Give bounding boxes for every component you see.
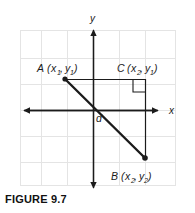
point-b-x-var: x <box>124 170 131 182</box>
point-a-comma: , <box>60 62 63 74</box>
figure-caption: FIGURE 9.7 <box>5 193 67 205</box>
grid-lines <box>20 30 176 186</box>
point-a-label: A ( x 1 , y 1 ) <box>36 62 78 76</box>
point-b-name: B <box>111 170 118 182</box>
distance-label: d <box>96 112 103 124</box>
coordinate-plane-diagram: x y d A ( x 1 , y 1 ) C ( <box>0 0 195 213</box>
point-a-x-var: x <box>50 62 57 74</box>
point-b-comma: , <box>134 170 137 182</box>
point-c-x-var: x <box>130 62 137 74</box>
point-a-name: A <box>36 62 44 74</box>
point-c-label: C ( x 2 , y 1 ) <box>117 62 158 76</box>
point-c-name: C <box>117 62 125 74</box>
x-axis-label: x <box>168 105 175 116</box>
point-c-comma: , <box>140 62 143 74</box>
point-a-marker <box>62 76 67 81</box>
right-angle-marker <box>133 80 145 93</box>
y-axis-label: y <box>89 13 96 24</box>
point-b-marker <box>142 155 148 161</box>
figure-container: x y d A ( x 1 , y 1 ) C ( <box>0 0 195 213</box>
